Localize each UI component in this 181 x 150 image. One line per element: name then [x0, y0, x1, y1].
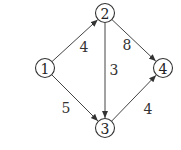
edge-weight-1-3: 5	[62, 100, 71, 116]
edge-weight-3-4: 4	[144, 101, 153, 117]
nodes-group: 1234	[36, 4, 173, 138]
graph-diagram: 45384 1234	[0, 0, 181, 150]
node-2: 2	[96, 4, 115, 23]
node-label-2: 2	[101, 6, 110, 22]
edge-labels-group: 45384	[62, 37, 153, 117]
edge-1-to-3	[52, 75, 98, 121]
node-1: 1	[36, 59, 55, 78]
node-4: 4	[154, 59, 173, 78]
node-label-3: 3	[101, 121, 110, 137]
node-label-4: 4	[159, 61, 168, 77]
edge-2-to-4	[112, 20, 156, 62]
edge-weight-2-3: 3	[110, 62, 119, 78]
edge-1-to-2	[52, 20, 98, 62]
edge-weight-2-4: 8	[123, 37, 132, 53]
node-3: 3	[96, 119, 115, 138]
edge-weight-1-2: 4	[80, 39, 89, 55]
node-label-1: 1	[41, 61, 50, 77]
